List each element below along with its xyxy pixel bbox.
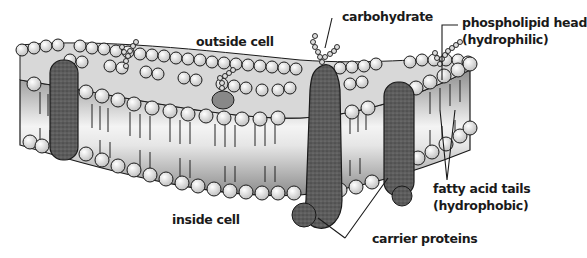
label-carrier-proteins: carrier proteins: [372, 231, 477, 247]
label-hydrophobic: (hydrophobic): [433, 198, 528, 214]
peripheral-protein: [212, 91, 234, 109]
label-fatty-acid-tails: fatty acid tails: [433, 181, 530, 197]
label-hydrophilic: (hydrophilic): [462, 32, 548, 48]
transmembrane-protein-left: [50, 60, 78, 160]
label-outside-cell: outside cell: [196, 34, 274, 50]
label-inside-cell: inside cell: [172, 212, 240, 228]
carrier-protein-right: [384, 82, 414, 206]
label-carbohydrate: carbohydrate: [342, 9, 433, 25]
label-phospholipid-head: phospholipid head: [462, 15, 587, 31]
